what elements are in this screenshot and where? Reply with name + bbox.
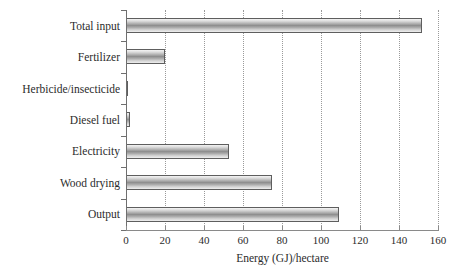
bar-wood-drying[interactable]: [126, 175, 272, 190]
bar-electricity[interactable]: [126, 144, 229, 159]
bar-total-input[interactable]: [126, 18, 422, 33]
x-axis-title: Energy (GJ)/hectare: [126, 252, 439, 264]
value-tick-label: 140: [379, 234, 419, 246]
value-tick-label: 0: [106, 234, 146, 246]
value-tick: [360, 226, 361, 231]
category-tick: [121, 41, 126, 42]
value-tick-label: 100: [301, 234, 341, 246]
value-tick: [321, 226, 322, 231]
bar-row: [126, 73, 438, 104]
bar-row: [126, 167, 438, 198]
value-tick-label: 160: [418, 234, 458, 246]
category-tick: [121, 136, 126, 137]
category-label-total-input: Total input: [0, 20, 120, 33]
bar-fertilizer[interactable]: [126, 49, 165, 64]
bar-output[interactable]: [126, 207, 339, 222]
bar-chart-figure: Total input Fertilizer Herbicide/insecti…: [0, 0, 467, 277]
bar-row: [126, 10, 438, 41]
value-tick: [282, 226, 283, 231]
value-tick: [204, 226, 205, 231]
category-label-herbicide-insecticide: Herbicide/insecticide: [0, 83, 120, 96]
category-label-electricity: Electricity: [0, 145, 120, 158]
category-tick: [121, 167, 126, 168]
gridline-160: [438, 10, 439, 230]
value-tick-label: 40: [184, 234, 224, 246]
value-tick: [165, 226, 166, 231]
value-tick: [438, 226, 439, 231]
bar-row: [126, 136, 438, 167]
value-tick: [399, 226, 400, 231]
bar-row: [126, 41, 438, 72]
value-tick: [243, 226, 244, 231]
category-tick: [121, 10, 126, 11]
category-label-output: Output: [0, 208, 120, 221]
category-label-wood-drying: Wood drying: [0, 177, 120, 190]
category-label-fertilizer: Fertilizer: [0, 51, 120, 64]
plot-area: [126, 10, 438, 230]
category-tick: [121, 199, 126, 200]
value-tick: [126, 226, 127, 231]
value-tick-label: 80: [262, 234, 302, 246]
category-tick: [121, 73, 126, 74]
category-axis-line: [126, 10, 127, 231]
value-tick-label: 120: [340, 234, 380, 246]
value-tick-label: 60: [223, 234, 263, 246]
category-tick: [121, 104, 126, 105]
value-tick-label: 20: [145, 234, 185, 246]
category-label-diesel-fuel: Diesel fuel: [0, 114, 120, 127]
bar-row: [126, 104, 438, 135]
